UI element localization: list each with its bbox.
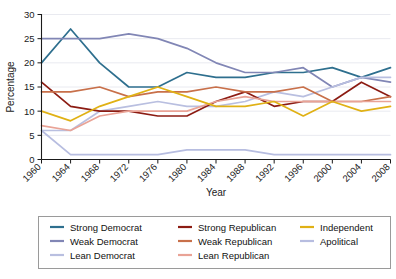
x-axis-tick-label: 1988 [224, 161, 247, 184]
x-axis-tick-label: 2004 [340, 161, 363, 184]
series-line-weak-republican [42, 87, 391, 102]
y-axis-tick-label: 20 [24, 57, 35, 68]
legend-label-lean-democrat: Lean Democrat [70, 250, 135, 261]
line-chart: 051015202530Percentage196019641968197219… [0, 0, 396, 279]
x-axis-tick-label: 1972 [107, 161, 130, 184]
x-axis-tick-label: 1992 [253, 161, 276, 184]
legend-label-weak-democrat: Weak Democrat [70, 236, 138, 247]
y-axis-title: Percentage [5, 61, 16, 113]
x-axis-tick-label: 1960 [20, 161, 43, 184]
x-axis-tick-label: 1968 [78, 161, 101, 184]
legend-label-lean-republican: Lean Republican [198, 250, 269, 261]
series-line-strong-democrat [42, 29, 391, 87]
series-line-apolitical [42, 131, 391, 155]
x-axis-tick-label: 1996 [282, 161, 305, 184]
legend-label-strong-democrat: Strong Democrat [70, 222, 142, 233]
x-axis-title: Year [206, 187, 227, 198]
chart-canvas: 051015202530Percentage196019641968197219… [0, 0, 396, 279]
x-axis-tick-label: 1984 [195, 161, 218, 184]
y-axis-tick-label: 5 [29, 130, 34, 141]
legend-label-apolitical: Apolitical [320, 236, 358, 247]
y-axis-tick-label: 25 [24, 33, 35, 44]
series-line-lean-republican [42, 97, 391, 131]
y-axis-tick-label: 10 [24, 106, 35, 117]
x-axis-tick-label: 2008 [369, 161, 392, 184]
x-axis-tick-label: 1976 [137, 161, 160, 184]
x-axis-tick-label: 2000 [311, 161, 334, 184]
legend-label-weak-republican: Weak Republican [198, 236, 272, 247]
legend-label-strong-republican: Strong Republican [198, 222, 276, 233]
series-line-weak-democrat [42, 34, 391, 87]
y-axis-tick-label: 30 [24, 9, 35, 20]
x-axis-tick-label: 1980 [166, 161, 189, 184]
y-axis-tick-label: 15 [24, 81, 35, 92]
x-axis-tick-label: 1964 [49, 161, 72, 184]
legend-label-independent: Independent [320, 222, 373, 233]
